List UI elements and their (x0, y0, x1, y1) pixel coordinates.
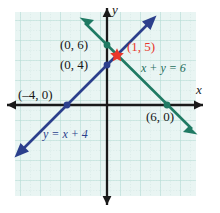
x-axis-arrow-right (194, 101, 203, 110)
label-point-6-0: (6, 0) (146, 110, 174, 123)
label-axis-y: y (112, 3, 118, 16)
label-intersection-point: (1, 5) (127, 40, 155, 53)
x-axis-arrow-left (7, 101, 16, 110)
label-equation-green: x + y = 6 (141, 62, 186, 74)
point-marker-6-0 (164, 102, 171, 109)
label-point-0-4: (0, 4) (60, 58, 88, 71)
point-marker-0-4 (104, 62, 111, 69)
point-marker-0-6 (104, 42, 111, 49)
coordinate-graph-figure: (0, 6) (0, 4) (–4, 0) (6, 0) (1, 5) x + … (0, 0, 220, 213)
graph-canvas (0, 0, 220, 213)
label-point-0-6: (0, 6) (60, 38, 88, 51)
label-equation-blue: y = x + 4 (43, 128, 88, 140)
point-marker-neg4-0 (64, 102, 71, 109)
label-point-neg4-0: (–4, 0) (18, 88, 53, 101)
y-axis-arrow-down (103, 196, 112, 205)
label-axis-x: x (196, 83, 202, 96)
